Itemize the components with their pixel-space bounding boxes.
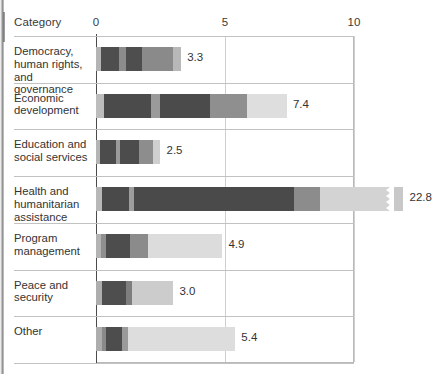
bar-segment bbox=[320, 187, 386, 211]
row-separator bbox=[14, 270, 354, 271]
category-label: Economic development bbox=[14, 92, 94, 118]
axis-break-mark bbox=[385, 187, 394, 211]
bar-segment bbox=[134, 187, 294, 211]
bar bbox=[96, 187, 385, 211]
bar-value-label: 3.3 bbox=[187, 51, 203, 63]
bar-overflow-segment bbox=[394, 187, 403, 211]
row-separator bbox=[14, 176, 354, 177]
bar-segment bbox=[102, 281, 127, 305]
bar bbox=[96, 234, 222, 258]
bar-segment bbox=[160, 94, 210, 118]
bar-segment bbox=[173, 47, 181, 71]
row-separator bbox=[14, 316, 354, 317]
category-label: Health and humanitarian assistance bbox=[14, 185, 94, 223]
bar-segment bbox=[247, 94, 286, 118]
bar bbox=[96, 140, 160, 164]
row-separator bbox=[14, 36, 354, 37]
bar-segment bbox=[120, 140, 139, 164]
bar-value-label: 5.4 bbox=[241, 331, 257, 343]
row-separator bbox=[14, 83, 354, 84]
bar bbox=[96, 327, 235, 351]
row-separator bbox=[14, 363, 354, 364]
bar-segment bbox=[100, 140, 116, 164]
bar-segment bbox=[294, 187, 320, 211]
category-column-header: Category bbox=[14, 16, 61, 28]
bar-segment bbox=[210, 94, 247, 118]
chart-header: Category 0510 bbox=[0, 16, 413, 34]
bar-segment bbox=[151, 94, 159, 118]
bar-segment bbox=[119, 47, 127, 71]
x-tick-label-10: 10 bbox=[348, 16, 361, 28]
bar-value-label: 22.8 bbox=[410, 191, 432, 203]
row-separator bbox=[14, 223, 354, 224]
bar-segment bbox=[101, 47, 119, 71]
x-tick-label-5: 5 bbox=[222, 16, 228, 28]
bar-segment bbox=[104, 94, 152, 118]
bar-segment bbox=[130, 234, 149, 258]
bar-segment bbox=[139, 140, 153, 164]
bar-segment bbox=[126, 47, 142, 71]
bar bbox=[96, 47, 181, 71]
bar-value-label: 2.5 bbox=[167, 144, 183, 156]
bar-segment bbox=[96, 94, 104, 118]
bar bbox=[96, 94, 287, 118]
bar-segment bbox=[142, 47, 173, 71]
bar-segment bbox=[132, 281, 174, 305]
x-tick-label-0: 0 bbox=[93, 16, 99, 28]
bar-segment bbox=[106, 234, 129, 258]
category-label: Peace and security bbox=[14, 279, 94, 305]
row-separator bbox=[14, 129, 354, 130]
bar-segment bbox=[394, 187, 403, 211]
bar-value-label: 7.4 bbox=[293, 98, 309, 110]
category-label: Program management bbox=[14, 232, 94, 258]
bar bbox=[96, 281, 173, 305]
bar-segment bbox=[148, 234, 222, 258]
bar-value-label: 4.9 bbox=[228, 238, 244, 250]
bar-segment bbox=[102, 187, 129, 211]
bar-segment bbox=[128, 327, 235, 351]
category-label: Education and social services bbox=[14, 138, 94, 164]
bar-segment bbox=[153, 140, 161, 164]
category-label: Other bbox=[14, 325, 94, 338]
bar-segment bbox=[106, 327, 122, 351]
category-label: Democracy, human rights, and governance bbox=[14, 45, 94, 96]
bar-value-label: 3.0 bbox=[179, 285, 195, 297]
